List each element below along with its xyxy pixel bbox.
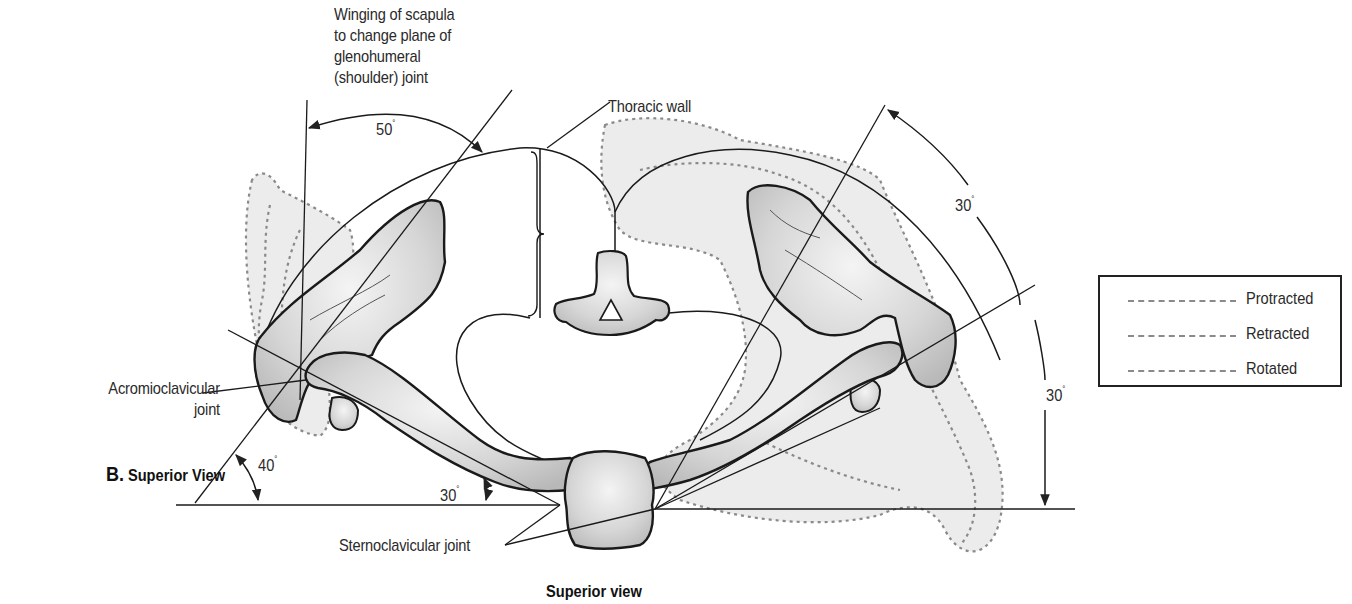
legend-item-retracted: Retracted <box>1100 324 1340 348</box>
sternum <box>565 451 654 549</box>
acromioclavicular-label: Acromioclavicular joint <box>105 378 220 420</box>
winging-label: Winging of scapula to change plane of gl… <box>334 4 454 88</box>
sternoclavicular-label: Sternoclavicular joint <box>339 535 470 556</box>
thoracic-wall-label: Thoracic wall <box>608 96 691 117</box>
legend-item-rotated: Rotated <box>1100 359 1340 383</box>
angle-30-upper-label: 30° <box>955 196 974 216</box>
vertebra <box>554 251 669 335</box>
angle-40-label: 40° <box>258 456 277 476</box>
panel-title: B. Superior View <box>106 462 225 486</box>
legend: Protracted Retracted Rotated <box>1098 275 1342 387</box>
figure-caption: Superior view <box>546 582 642 602</box>
left-coracoid <box>330 397 359 430</box>
angle-50-label: 50° <box>376 120 395 140</box>
angle-30-clavicle-label: 30° <box>440 486 459 506</box>
dashed-line-icon <box>1128 335 1236 337</box>
dashed-line-icon <box>1128 300 1236 302</box>
angle-30-lower-label: 30° <box>1046 386 1065 406</box>
thoracic-wall-brace <box>528 152 544 316</box>
legend-item-protracted: Protracted <box>1100 289 1340 313</box>
dashed-line-icon <box>1128 370 1236 372</box>
